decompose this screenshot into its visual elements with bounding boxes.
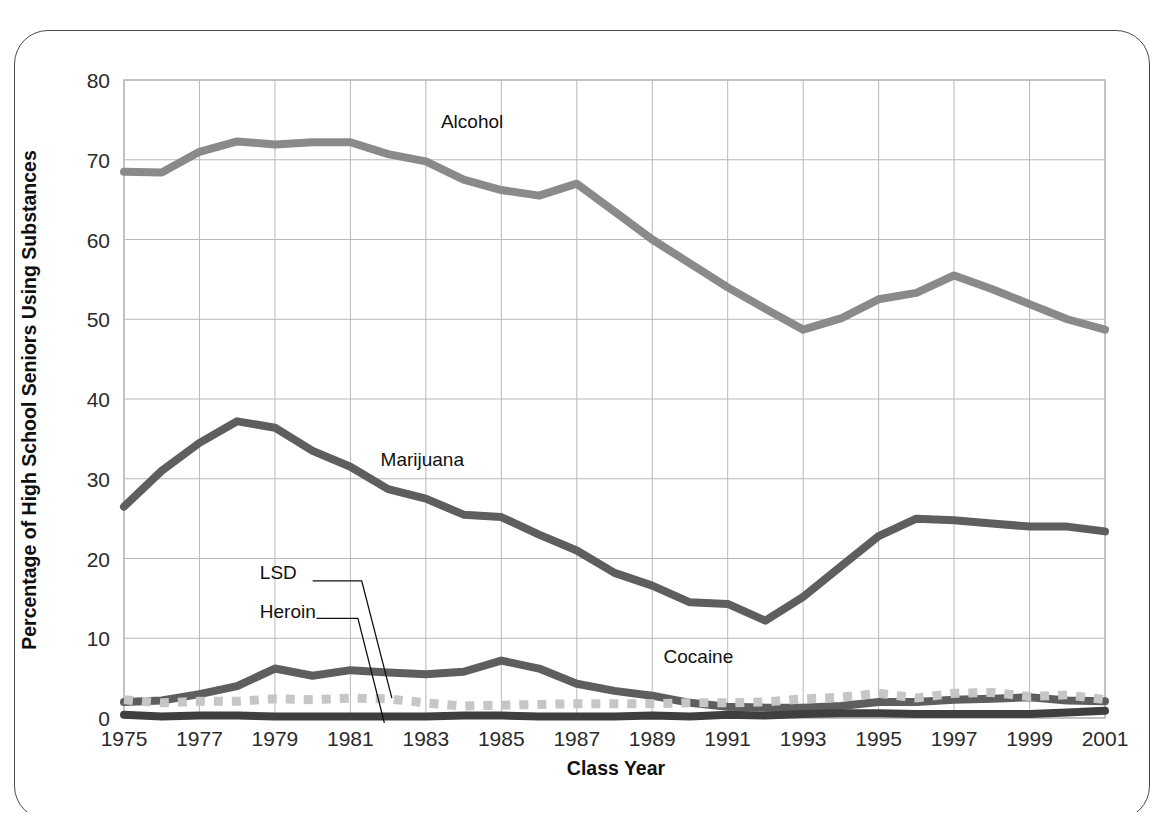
series-label-cocaine: Cocaine: [664, 646, 734, 667]
x-tick-label: 1979: [252, 727, 299, 750]
y-axis-title: Percentage of High School Seniors Using …: [18, 150, 40, 650]
series-line-marijuana: [124, 421, 1105, 620]
x-tick-label: 1993: [780, 727, 827, 750]
series-label-lsd: LSD: [260, 562, 297, 583]
y-tick-label: 20: [87, 548, 110, 571]
series-label-heroin: Heroin: [260, 601, 316, 622]
y-tick-label: 30: [87, 468, 110, 491]
substance-use-line-chart: 80706050403020100 1975197719791981198319…: [0, 0, 1172, 840]
series-line-heroin: [124, 711, 1105, 717]
x-tick-label: 1987: [553, 727, 600, 750]
y-tick-label: 70: [87, 149, 110, 172]
series-label-marijuana: Marijuana: [381, 449, 465, 470]
series-labels: AlcoholMarijuanaCocaineLSDHeroin: [260, 111, 733, 667]
x-axis-tick-labels: 1975197719791981198319851987198919911993…: [101, 727, 1129, 750]
y-tick-label: 60: [87, 229, 110, 252]
gridlines: [124, 80, 1105, 718]
series-line-alcohol: [124, 141, 1105, 329]
x-tick-label: 1975: [101, 727, 148, 750]
y-tick-label: 80: [87, 69, 110, 92]
y-tick-label: 50: [87, 308, 110, 331]
x-tick-label: 2001: [1082, 727, 1129, 750]
x-tick-label: 1997: [931, 727, 978, 750]
leader-line-lsd: [313, 581, 392, 698]
y-tick-label: 40: [87, 388, 110, 411]
y-tick-label: 10: [87, 627, 110, 650]
x-tick-label: 1991: [704, 727, 751, 750]
chart-page: 80706050403020100 1975197719791981198319…: [0, 0, 1172, 840]
x-tick-label: 1999: [1006, 727, 1053, 750]
series-lines: [124, 141, 1105, 716]
x-tick-label: 1995: [855, 727, 902, 750]
x-tick-label: 1977: [176, 727, 223, 750]
series-label-alcohol: Alcohol: [441, 111, 503, 132]
x-axis-title: Class Year: [567, 757, 666, 779]
y-axis-tick-labels: 80706050403020100: [87, 69, 110, 730]
x-tick-label: 1981: [327, 727, 374, 750]
x-tick-label: 1983: [402, 727, 449, 750]
x-tick-label: 1985: [478, 727, 525, 750]
x-tick-label: 1989: [629, 727, 676, 750]
